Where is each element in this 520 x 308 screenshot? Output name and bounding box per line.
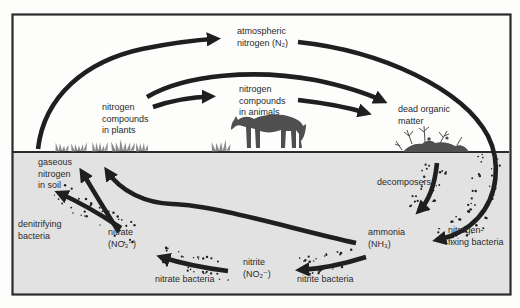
grass-tuft	[56, 143, 69, 152]
label-nitrogen-compounds-in-animals: nitrogen compounds in animals	[239, 84, 286, 119]
grass-tuft	[71, 142, 87, 152]
label-gaseous-nitrogen-in-soil: gaseous nitrogen in soil	[38, 157, 72, 192]
label-dead-organic-matter: dead organic matter	[398, 104, 450, 127]
cow-silhouette	[231, 115, 306, 148]
label-decomposers: decomposers	[377, 177, 431, 189]
dead-matter-knob	[445, 136, 448, 139]
label-nitrogen-fixing-bacteria: nitrogen- fixing bacteria	[448, 225, 504, 248]
label-ammonia: ammonia (NH₃)	[368, 227, 405, 250]
label-nitrate: nitrate (NO₃⁻)	[108, 227, 136, 250]
nitrogen-cycle-diagram: atmospheric nitrogen (N₂) nitrogen compo…	[0, 0, 520, 308]
label-nitrite-bacteria: nitrite bacteria	[297, 274, 354, 286]
label-nitrogen-compounds-in-plants: nitrogen compounds in plants	[102, 102, 149, 137]
label-nitrate-bacteria: nitrate bacteria	[155, 274, 215, 286]
grass-tuft	[92, 142, 108, 152]
label-atmospheric-nitrogen: atmospheric nitrogen (N₂)	[237, 26, 288, 49]
arrow-plants-to-animals	[153, 97, 211, 108]
label-nitrite: nitrite (NO₂⁻)	[243, 257, 271, 280]
grass-tuft	[111, 139, 135, 151]
arrow-animals-to-dead-matter	[298, 100, 367, 113]
grass-tufts	[56, 139, 231, 151]
grass-tuft	[136, 143, 148, 152]
label-denitrifying-bacteria: denitrifying bacteria	[18, 219, 62, 242]
dead-matter-knob	[427, 137, 431, 141]
grass-tuft	[212, 140, 231, 152]
